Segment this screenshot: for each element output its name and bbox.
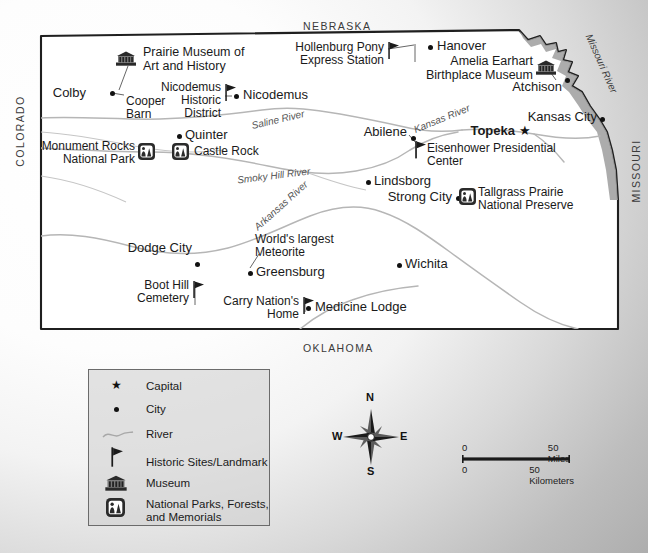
city-label-wichita[interactable]: Wichita — [405, 257, 448, 271]
scale-label-km-max: 50 Kilometers — [529, 464, 574, 486]
leader-prairie-museum — [119, 66, 128, 90]
city-label-strong-city[interactable]: Strong City — [388, 190, 452, 204]
legend-label-museum: Museum — [146, 477, 190, 490]
city-dot-colby[interactable] — [110, 91, 115, 96]
city-label-colby[interactable]: Colby — [53, 86, 86, 100]
city-label-lindsborg[interactable]: Lindsborg — [374, 174, 431, 188]
city-dot-wichita[interactable] — [397, 263, 402, 268]
park-label-monument-rocks[interactable]: Monument Rocks National Park — [42, 140, 135, 166]
legend-dot-icon — [114, 407, 119, 412]
scale-label-km-zero: 0 — [462, 464, 467, 475]
map-legend: ★ Capital City River Historic Sites/Land… — [88, 369, 270, 526]
legend-museum-icon — [105, 475, 127, 491]
museum-label-amelia-earhart[interactable]: Amelia Earhart Birthplace Museum — [426, 55, 533, 82]
city-label-greensburg[interactable]: Greensburg — [256, 265, 325, 279]
city-label-medicine-lodge[interactable]: Medicine Lodge — [315, 300, 407, 314]
scale-bar-graphic — [462, 455, 584, 463]
city-dot-quinter[interactable] — [177, 134, 182, 139]
capital-star-icon[interactable]: ★ — [519, 124, 531, 137]
site-label-nicodemus-historic-district[interactable]: Nicodemus Historic District — [161, 81, 221, 120]
park-icon-tallgrass-prairie[interactable] — [459, 188, 476, 205]
city-label-kansas-city[interactable]: Kansas City — [528, 110, 597, 124]
map-canvas: NEBRASKA COLORADO MISSOURI OKLAHOMA Sali… — [0, 0, 648, 553]
compass-label-south: S — [367, 465, 374, 477]
scale-bar: 0 50 Miles 0 50 Kilometers — [462, 442, 584, 478]
city-dot-hanover[interactable] — [428, 45, 433, 50]
legend-label-historic-site: Historic Sites/Landmark — [146, 456, 267, 469]
flag-icon-hollenburg-pony-express[interactable] — [387, 42, 400, 59]
museum-label-prairie[interactable]: Prairie Museum of Art and History — [143, 46, 244, 73]
site-label-cooper-barn[interactable]: Cooper Barn — [126, 95, 165, 121]
museum-icon-amelia-earhart[interactable] — [536, 60, 556, 75]
flag-icon-carry-nation-home[interactable] — [302, 297, 315, 314]
compass-rose: N S W E — [338, 395, 404, 480]
compass-label-west: W — [332, 430, 342, 442]
compass-label-east: E — [400, 430, 407, 442]
legend-flag-icon — [110, 447, 124, 467]
city-label-abilene[interactable]: Abilene — [364, 125, 407, 139]
legend-park-icon — [106, 498, 125, 517]
flag-icon-boot-hill-cemetery[interactable] — [192, 281, 205, 298]
park-label-tallgrass-prairie[interactable]: Tallgrass Prairie National Preserve — [478, 186, 573, 212]
site-label-carry-nation-home[interactable]: Carry Nation's Home — [223, 295, 299, 321]
compass-label-north: N — [366, 391, 374, 403]
city-dot-atchison[interactable] — [565, 78, 570, 83]
flag-icon-nicodemus-historic-district[interactable] — [224, 84, 237, 101]
site-label-boot-hill-cemetery[interactable]: Boot Hill Cemetery — [137, 279, 189, 305]
park-icon-castle-rock[interactable] — [172, 143, 189, 160]
legend-label-capital: Capital — [146, 380, 182, 393]
city-dot-dodge-city[interactable] — [195, 262, 200, 267]
legend-star-icon: ★ — [111, 378, 122, 392]
park-icon-monument-rocks[interactable] — [138, 143, 155, 160]
site-label-eisenhower-center[interactable]: Eisenhower Presidential Center — [427, 142, 556, 168]
legend-label-city: City — [146, 403, 166, 416]
museum-icon-prairie[interactable] — [116, 51, 136, 66]
site-label-worlds-largest-meteorite[interactable]: World's largest Meteorite — [255, 233, 334, 259]
flag-icon-eisenhower-center[interactable] — [414, 141, 427, 158]
city-label-nicodemus[interactable]: Nicodemus — [243, 88, 308, 102]
city-dot-kansas-city[interactable] — [600, 117, 605, 122]
capital-label-topeka[interactable]: Topeka — [470, 124, 515, 138]
city-label-atchison[interactable]: Atchison — [512, 80, 562, 94]
scale-label-miles-zero: 0 — [462, 442, 467, 453]
park-label-castle-rock[interactable]: Castle Rock — [194, 145, 259, 158]
city-dot-lindsborg[interactable] — [366, 180, 371, 185]
city-dot-greensburg[interactable] — [248, 271, 253, 276]
legend-river-icon — [102, 428, 134, 442]
legend-label-river: River — [146, 428, 173, 441]
legend-label-national-parks: National Parks, Forests, and Memorials — [146, 498, 269, 524]
site-label-hollenburg-pony-express[interactable]: Hollenburg Pony Express Station — [295, 41, 384, 67]
city-label-hanover[interactable]: Hanover — [437, 39, 486, 53]
city-label-dodge-city[interactable]: Dodge City — [128, 241, 192, 255]
city-label-quinter[interactable]: Quinter — [185, 128, 228, 142]
